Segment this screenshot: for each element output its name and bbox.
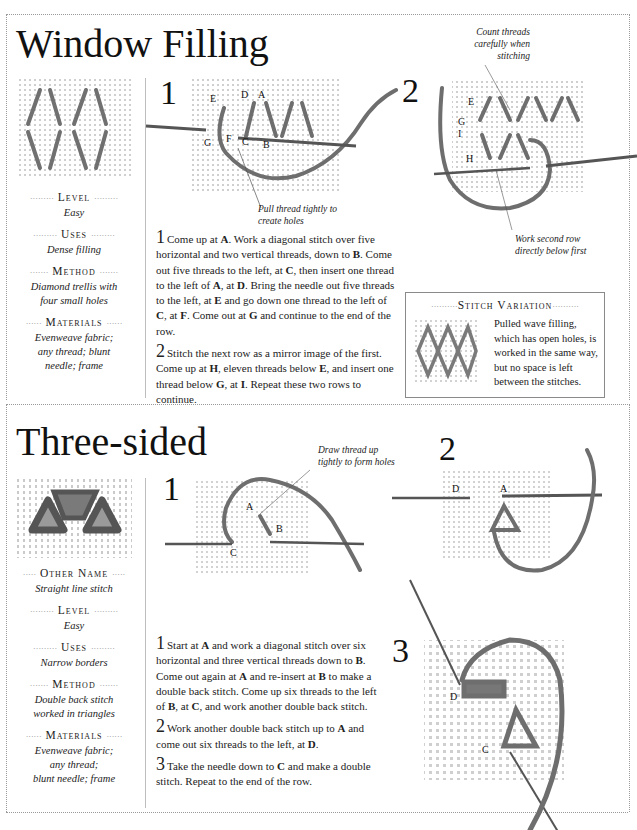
step-number: 3	[156, 754, 165, 774]
instruction-step-2: 2Stitch the next row as a mirror image o…	[156, 345, 396, 407]
step-2-top-caption: Count threads carefully when stitching	[450, 26, 530, 62]
info-value: Easy	[12, 206, 136, 220]
step-number: 2	[156, 716, 165, 736]
step-text: Work another double back stitch up to A …	[156, 722, 364, 749]
info-value: Diamond trellis with	[12, 280, 136, 294]
section-title-three-sided: Three-sided	[16, 420, 207, 464]
window-filling-sample-image	[18, 78, 134, 178]
info-materials: ······ Materials ······ Evenweave fabric…	[12, 728, 136, 786]
section-title-window-filling: Window Filling	[16, 22, 269, 66]
info-value: Easy	[12, 619, 136, 633]
svg-text:E: E	[210, 93, 216, 104]
step-text: Start at A and work a diagonal stitch ov…	[156, 639, 377, 712]
info-uses: ········· Uses ········· Narrow borders	[12, 640, 136, 670]
text-line: which has open holes, is	[494, 332, 604, 347]
info-value: any thread; blunt	[12, 345, 136, 359]
text-line: but no space is left	[494, 361, 604, 376]
step-1-caption: Pull thread tightly to create holes	[258, 203, 337, 227]
svg-text:A: A	[500, 483, 508, 494]
info-value: worked in triangles	[12, 707, 136, 721]
info-level: ········· Level ········· Easy	[12, 603, 136, 633]
stitch-variation-heading: ··········Stitch Variation··········	[406, 299, 604, 311]
info-value: Evenweave fabric;	[12, 744, 136, 758]
step-1-diagram: EDA GFCB	[146, 78, 396, 198]
step-number: 1	[156, 633, 165, 653]
caption-line: Pull thread tightly to	[258, 203, 337, 215]
sidebar-divider	[145, 478, 146, 808]
caption-line: Draw thread up	[318, 444, 395, 456]
step-2-caption: Work second row directly below first	[515, 233, 586, 257]
caption-line: Work second row	[515, 233, 586, 245]
info-label: Materials	[45, 729, 102, 741]
svg-text:A: A	[258, 89, 266, 100]
instruction-step-1: 1Start at A and work a diagonal stitch o…	[156, 637, 386, 714]
window-filling-instructions: 1Come up at A. Work a diagonal stitch ov…	[156, 231, 396, 413]
info-value: Straight line stitch	[12, 582, 136, 596]
svg-text:C: C	[482, 744, 489, 755]
top-border	[6, 14, 628, 15]
step-number: 1	[156, 227, 165, 247]
three-sided-sidebar: ····· Other Name ····· Straight line sti…	[12, 566, 136, 793]
caption-line: create holes	[258, 215, 337, 227]
svg-text:D: D	[452, 483, 459, 494]
info-method: ······· Method ······· Diamond trellis w…	[12, 264, 136, 308]
info-value: Narrow borders	[12, 656, 136, 670]
svg-text:F: F	[226, 133, 232, 144]
caption-line: tightly to form holes	[318, 456, 395, 468]
three-sided-sample-image	[16, 478, 132, 558]
svg-text:G: G	[458, 116, 465, 127]
info-value: Double back stitch	[12, 693, 136, 707]
stitch-variation-image	[414, 319, 480, 383]
heading-text: Stitch Variation	[458, 299, 553, 311]
text-line: Pulled wave filling,	[494, 317, 604, 332]
info-method: ······· Method ······· Double back stitc…	[12, 677, 136, 721]
step-text: Take the needle down to C and make a dou…	[156, 760, 371, 787]
info-label: Method	[52, 265, 95, 277]
instruction-step-2: 2Work another double back stitch up to A…	[156, 720, 386, 752]
info-uses: ········· Uses ········· Dense filling	[12, 227, 136, 257]
text-line: between the stitches.	[494, 375, 604, 390]
svg-text:A: A	[246, 501, 254, 512]
window-filling-sidebar: ········· Level ········· Easy ·········…	[12, 190, 136, 380]
svg-text:B: B	[263, 139, 270, 150]
info-label: Level	[58, 604, 90, 616]
stitch-variation-box: ··········Stitch Variation·········· Pul…	[405, 292, 605, 398]
step-text: Come up at A. Work a diagonal stitch ove…	[156, 233, 394, 337]
info-materials: ······ Materials ······ Evenweave fabric…	[12, 315, 136, 373]
svg-text:D: D	[241, 89, 248, 100]
step-text: Stitch the next row as a mirror image of…	[156, 347, 394, 405]
step-number: 2	[156, 341, 165, 361]
info-label: Other Name	[40, 567, 108, 579]
svg-text:D: D	[450, 691, 457, 702]
svg-text:B: B	[276, 523, 283, 534]
info-value: Dense filling	[12, 243, 136, 257]
stitch-variation-text: Pulled wave filling, which has open hole…	[494, 317, 604, 390]
info-label: Uses	[61, 228, 87, 240]
info-value: blunt needle; frame	[12, 772, 136, 786]
caption-line: directly below first	[515, 245, 586, 257]
step-2-diagram: EGIH	[430, 70, 637, 220]
info-value: four small holes	[12, 294, 136, 308]
step-1-caption: Draw thread up tightly to form holes	[318, 444, 395, 468]
three-sided-step-3-diagram: DC	[400, 560, 620, 830]
three-sided-step-1-diagram: ABC	[160, 470, 380, 580]
caption-line: Count threads	[450, 26, 530, 38]
info-label: Method	[52, 678, 95, 690]
caption-line: stitching	[450, 50, 530, 62]
caption-line: carefully when	[450, 38, 530, 50]
svg-text:H: H	[466, 153, 473, 164]
info-other-name: ····· Other Name ····· Straight line sti…	[12, 566, 136, 596]
info-value: needle; frame	[12, 359, 136, 373]
step-number: 2	[402, 74, 419, 108]
info-label: Uses	[61, 641, 87, 653]
info-label: Level	[58, 191, 90, 203]
info-value: Evenweave fabric;	[12, 331, 136, 345]
svg-text:C: C	[242, 136, 249, 147]
info-label: Materials	[45, 316, 102, 328]
three-sided-instructions: 1Start at A and work a diagonal stitch o…	[156, 637, 386, 796]
svg-text:C: C	[230, 547, 237, 558]
svg-text:G: G	[204, 137, 211, 148]
svg-text:E: E	[468, 96, 474, 107]
svg-text:I: I	[458, 128, 461, 139]
instruction-step-3: 3Take the needle down to C and make a do…	[156, 758, 386, 790]
